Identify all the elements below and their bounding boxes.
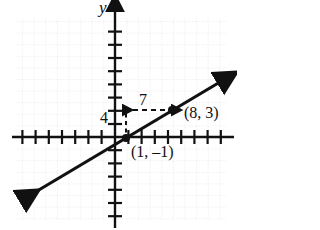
rise-label: 4 [100, 110, 108, 126]
data-point-8-3 [168, 106, 176, 114]
point-label-8-3: (8, 3) [184, 105, 219, 121]
y-axis-label: y [99, 0, 107, 16]
data-point-1-neg1 [122, 134, 130, 142]
run-label: 7 [139, 92, 147, 108]
point-label-1-neg1: (1, –1) [131, 144, 174, 160]
